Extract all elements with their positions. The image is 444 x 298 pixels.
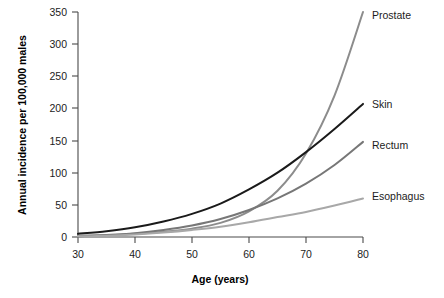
x-axis-title: Age (years) bbox=[191, 273, 248, 285]
series-line-prostate bbox=[78, 12, 363, 236]
x-tick-label-70: 70 bbox=[300, 248, 312, 260]
series-label-prostate: Prostate bbox=[372, 9, 411, 21]
series-label-rectum: Rectum bbox=[372, 139, 408, 151]
y-axis-ticks bbox=[72, 12, 78, 237]
chart-svg: 0 50 100 150 200 250 300 350 30 40 50 60… bbox=[0, 0, 444, 298]
y-tick-label-50: 50 bbox=[55, 199, 67, 211]
x-axis-ticks bbox=[78, 237, 363, 243]
x-tick-label-30: 30 bbox=[72, 248, 84, 260]
x-tick-label-40: 40 bbox=[129, 248, 141, 260]
series-label-skin: Skin bbox=[372, 98, 393, 110]
series-label-esophagus: Esophagus bbox=[372, 190, 425, 202]
y-tick-label-100: 100 bbox=[49, 167, 67, 179]
y-tick-label-150: 150 bbox=[49, 135, 67, 147]
incidence-chart-figure: 0 50 100 150 200 250 300 350 30 40 50 60… bbox=[0, 0, 444, 298]
x-tick-label-50: 50 bbox=[186, 248, 198, 260]
y-tick-label-200: 200 bbox=[49, 102, 67, 114]
y-tick-label-250: 250 bbox=[49, 70, 67, 82]
y-tick-label-300: 300 bbox=[49, 38, 67, 50]
y-axis-tick-labels: 0 50 100 150 200 250 300 350 bbox=[49, 6, 67, 243]
y-tick-label-350: 350 bbox=[49, 6, 67, 18]
y-axis-title: Annual incidence per 100,000 males bbox=[16, 35, 28, 215]
y-tick-label-0: 0 bbox=[61, 231, 67, 243]
x-axis-tick-labels: 30 40 50 60 70 80 bbox=[72, 248, 369, 260]
x-tick-label-60: 60 bbox=[243, 248, 255, 260]
x-tick-label-80: 80 bbox=[357, 248, 369, 260]
series-line-skin bbox=[78, 104, 363, 234]
series-layer bbox=[78, 12, 363, 236]
